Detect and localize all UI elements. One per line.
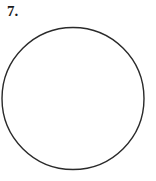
circle-figure <box>0 0 156 181</box>
circle-outline <box>2 28 144 170</box>
